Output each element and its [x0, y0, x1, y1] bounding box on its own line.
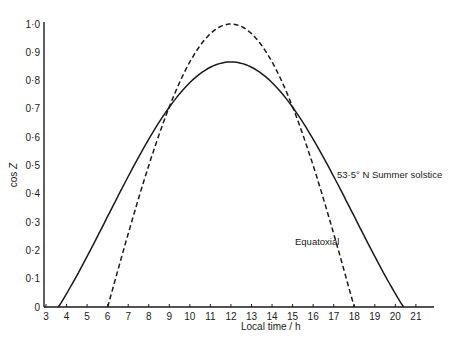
x-tick-label: 7 — [125, 311, 131, 322]
x-tick-label: 18 — [349, 311, 361, 322]
solstice-curve — [58, 62, 403, 307]
x-axis-title: Local time / h — [241, 321, 300, 332]
x-tick-label: 11 — [205, 311, 216, 322]
y-tick-label: 0·1 — [26, 273, 41, 284]
y-tick-label: 0·4 — [26, 188, 41, 199]
x-tick-label: 6 — [105, 311, 111, 322]
cos-zenith-chart: 00·10·20·30·40·50·60·70·80·91·0 34567891… — [0, 0, 460, 345]
y-tick-label: 0·6 — [26, 132, 41, 143]
y-tick-label: 1·0 — [26, 19, 41, 30]
equatorial-annotation: Equatoxial — [295, 236, 339, 247]
x-tick-label: 20 — [390, 311, 402, 322]
solstice-annotation: 53·5° N Summer solstice — [337, 169, 442, 180]
x-tick-label: 21 — [410, 311, 422, 322]
x-tick-label: 9 — [167, 311, 173, 322]
x-tick-label: 16 — [308, 311, 320, 322]
y-tick-label: 0 — [34, 302, 40, 313]
y-tick-label: 0·5 — [26, 160, 41, 171]
equatorial-curve — [108, 24, 355, 307]
y-axis-title: cos Z — [8, 162, 19, 187]
x-tick-label: 3 — [43, 311, 49, 322]
x-tick-label: 17 — [328, 311, 340, 322]
y-tick-label: 0·7 — [26, 103, 41, 114]
x-tick-label: 10 — [184, 311, 196, 322]
x-tick-label: 5 — [84, 311, 90, 322]
x-tick-label: 8 — [146, 311, 152, 322]
x-tick-label: 19 — [369, 311, 381, 322]
x-tick-label: 12 — [225, 311, 237, 322]
y-tick-label: 0·3 — [26, 217, 41, 228]
y-tick-label: 0·8 — [26, 75, 41, 86]
y-tick-label: 0·9 — [26, 47, 41, 58]
x-tick-label: 4 — [64, 311, 70, 322]
y-axis-ticks: 00·10·20·30·40·50·60·70·80·91·0 — [26, 19, 41, 313]
y-tick-label: 0·2 — [26, 245, 41, 256]
